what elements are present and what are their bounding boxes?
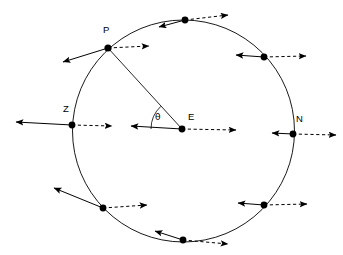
arrow-dashed-E [182,129,236,130]
arrow-dashed-top [185,15,228,20]
tidal-force-diagram: PZENθ [0,0,343,255]
arrow-solid-Z [16,122,72,125]
diagram-canvas: PZENθ [0,0,343,255]
radius-lines-group [108,48,182,129]
point-lower-left [100,205,107,212]
point-top [182,17,189,24]
point-bottom [180,237,187,244]
arrow-dashed-N [293,134,336,135]
label-z: Z [63,103,69,114]
point-E-center [179,126,186,133]
arrow-solid-lower-right [238,203,264,205]
point-P [104,44,111,51]
arrow-solid-bottom [155,231,183,240]
arrow-dashed-lower-left [103,205,147,208]
arrow-dashed-Z [72,125,112,126]
arrow-solid-P [63,48,108,62]
arrow-solid-lower-left [54,188,103,208]
solid-arrows-group [16,20,293,240]
arrow-dashed-P [108,46,149,48]
radius-line-P-E [108,48,182,129]
arrow-solid-top [159,20,185,27]
point-upper-right [261,54,268,61]
arrow-solid-E [131,126,182,129]
labels-group: PZENθ [63,24,303,124]
label-e: E [188,111,194,122]
point-Z [69,122,76,129]
label-p: P [103,24,109,35]
point-lower-right [261,202,268,209]
label-theta: θ [155,112,161,122]
label-n: N [296,113,303,124]
point-N [290,131,297,138]
arrow-dashed-lower-right [264,204,307,205]
arrow-solid-upper-right [236,55,264,57]
dashed-arrows-group [72,15,336,244]
arrow-dashed-upper-right [264,56,306,57]
